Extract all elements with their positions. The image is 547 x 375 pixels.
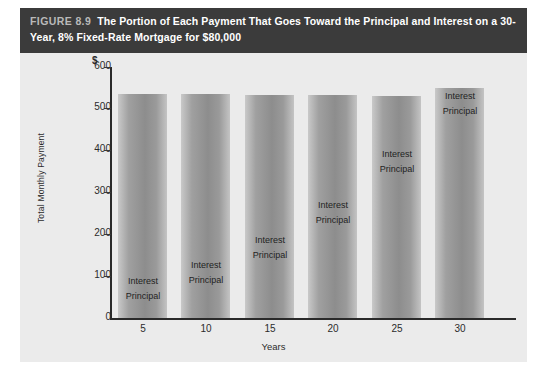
x-tick-label-15: 15 xyxy=(234,323,306,334)
interest-label-year-15: Interest xyxy=(234,233,306,248)
bar-year-30[interactable] xyxy=(435,88,484,318)
bar-labels-year-5: Interest Principal xyxy=(107,274,179,304)
y-tick-600: 600 xyxy=(20,67,111,68)
figure-header-text: FIGURE 8.9 The Portion of Each Payment T… xyxy=(30,14,517,45)
chart-panel: $ Total Monthly Payment 600 500 400 300 xyxy=(20,53,527,362)
bar-year-15[interactable] xyxy=(245,95,294,318)
figure-title: The Portion of Each Payment That Goes To… xyxy=(30,15,516,43)
figure-number: FIGURE 8.9 xyxy=(30,15,91,27)
interest-label-year-10: Interest xyxy=(170,258,242,273)
y-tick-400: 400 xyxy=(20,150,111,151)
bar-labels-year-10: Interest Principal xyxy=(170,258,242,288)
plot-area: $ Total Monthly Payment 600 500 400 300 xyxy=(20,53,527,362)
x-axis-title: Years xyxy=(20,341,527,352)
bar-labels-year-30: Interest Principal xyxy=(424,89,496,119)
principal-label-year-20: Principal xyxy=(297,213,369,228)
interest-label-year-25: Interest xyxy=(361,147,433,162)
x-axis-line xyxy=(110,318,516,320)
principal-label-year-25: Principal xyxy=(361,162,433,177)
bar-year-25[interactable] xyxy=(372,96,421,318)
figure-container: FIGURE 8.9 The Portion of Each Payment T… xyxy=(0,0,547,375)
y-tick-100: 100 xyxy=(20,276,111,277)
principal-label-year-30: Principal xyxy=(424,104,496,119)
y-tick-200: 200 xyxy=(20,234,111,235)
y-tick-300: 300 xyxy=(20,192,111,193)
principal-label-year-5: Principal xyxy=(107,289,179,304)
bar-labels-year-20: Interest Principal xyxy=(297,198,369,228)
principal-label-year-10: Principal xyxy=(170,273,242,288)
interest-label-year-20: Interest xyxy=(297,198,369,213)
bar-labels-year-15: Interest Principal xyxy=(234,233,306,263)
principal-label-year-15: Principal xyxy=(234,248,306,263)
x-tick-label-25: 25 xyxy=(361,323,433,334)
interest-label-year-30: Interest xyxy=(424,89,496,104)
y-tick-500: 500 xyxy=(20,108,111,109)
interest-label-year-5: Interest xyxy=(107,274,179,289)
x-tick-label-30: 30 xyxy=(424,323,496,334)
bar-labels-year-25: Interest Principal xyxy=(361,147,433,177)
x-tick-label-20: 20 xyxy=(297,323,369,334)
x-tick-label-5: 5 xyxy=(107,323,179,334)
figure-header: FIGURE 8.9 The Portion of Each Payment T… xyxy=(20,8,527,53)
x-tick-label-10: 10 xyxy=(170,323,242,334)
y-tick-0: 0 xyxy=(20,318,111,319)
y-axis-title: Total Monthly Payment xyxy=(36,108,46,248)
